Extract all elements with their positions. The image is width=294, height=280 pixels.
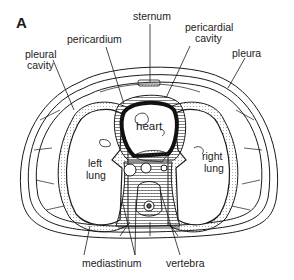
label-right-lung-line2: lung	[204, 163, 224, 174]
label-pericardium: pericardium	[67, 34, 122, 45]
label-left-lung-line1: left	[88, 158, 102, 169]
label-mediastinum: mediastinum	[82, 258, 142, 269]
sternum-shape	[138, 80, 160, 86]
label-pericardial-cavity-line2: cavity	[195, 33, 222, 44]
label-right-lung-line1: right	[202, 151, 222, 162]
label-sternum: sternum	[133, 11, 171, 22]
label-pleural-cavity-line2: cavity	[27, 60, 54, 71]
label-vertebra: vertebra	[166, 258, 205, 269]
label-left-lung-line2: lung	[86, 170, 106, 181]
label-pleura: pleura	[232, 48, 261, 59]
thorax-cross-section	[0, 0, 294, 280]
heart-shape	[122, 103, 177, 162]
label-heart: heart	[136, 121, 162, 132]
